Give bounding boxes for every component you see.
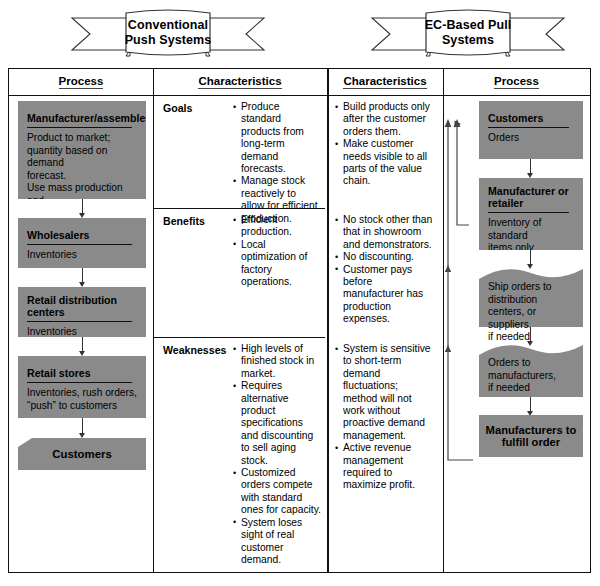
- column-divider-1: [153, 69, 154, 572]
- list-item: Active revenue management required to ma…: [335, 442, 435, 492]
- bullet-list: Efficient production. Local optimization…: [233, 214, 321, 288]
- column-header-label: Characteristics: [343, 75, 426, 89]
- process-box-title: Manufacturer or retailer: [488, 185, 575, 210]
- characteristics-pull-weaknesses: System is sensitive to short-term demand…: [335, 343, 435, 492]
- banner-label-conventional: Conventional Push Systems: [120, 18, 216, 47]
- title-underline: [488, 127, 569, 128]
- characteristics-pull-goals: Build products only after the customer o…: [335, 101, 435, 188]
- list-item: Produce standard products from long-term…: [233, 101, 321, 175]
- process-box-orders-to-manufacturers[interactable]: Orders to manufacturers, if needed: [479, 341, 583, 397]
- list-item: System loses sight of real customer dema…: [233, 517, 321, 567]
- arrow-retail-stores-to-customers: [82, 418, 84, 437]
- process-box-title: Customers: [52, 448, 112, 460]
- title-underline: [488, 212, 569, 213]
- characteristics-push-weaknesses: High levels of finished stock in market.…: [233, 343, 321, 566]
- process-box-customers-right[interactable]: Customers Orders: [479, 101, 583, 159]
- row-label-weaknesses-push: Weaknesses: [163, 344, 226, 356]
- diagram-canvas: Conventional Push Systems EC-Based Pull …: [0, 0, 600, 586]
- process-box-manufacturers-to-fulfill-order[interactable]: Manufacturers to fulfill order: [479, 415, 583, 457]
- list-item: Make customer needs visible to all parts…: [335, 138, 435, 188]
- bullet-list: System is sensitive to short-term demand…: [335, 343, 435, 492]
- row-label-text: Benefits: [163, 215, 205, 227]
- process-box-body: Inventories: [27, 249, 138, 262]
- banner-label-ec-pull: EC-Based Pull Systems: [420, 18, 516, 47]
- process-box-body: Inventories: [27, 326, 138, 337]
- banner-conventional-push: Conventional Push Systems: [68, 6, 268, 58]
- process-box-customers-left[interactable]: Customers: [18, 438, 146, 470]
- banner-ec-based-pull: EC-Based Pull Systems: [368, 6, 568, 58]
- bullet-list: High levels of finished stock in market.…: [233, 343, 321, 566]
- column-divider-2: [327, 69, 329, 572]
- column-header-label: Process: [494, 75, 539, 89]
- process-box-body: Inventory of standard items only: [488, 217, 575, 250]
- comparison-table-frame: Process Characteristics Characteristics …: [8, 68, 591, 573]
- process-box-body: Orders to manufacturers, if needed: [479, 341, 583, 399]
- arrow-orders-to-manufacturers-fulfill: [530, 397, 532, 415]
- column-header-process-left: Process: [9, 75, 153, 89]
- header-divider: [9, 95, 590, 96]
- row-label-goals-push: Goals: [163, 102, 192, 114]
- title-underline: [27, 127, 132, 128]
- list-item: High levels of finished stock in market.: [233, 343, 321, 380]
- feedback-loop-arrows: [443, 95, 479, 495]
- row-label-benefits-push: Benefits: [163, 215, 205, 227]
- list-item: Customer pays before manufacturer has pr…: [335, 264, 435, 326]
- column-header-label: Process: [59, 75, 104, 89]
- process-box-manufacturer-or-retailer[interactable]: Manufacturer or retailer Inventory of st…: [479, 178, 583, 250]
- banner-line2: Systems: [420, 33, 516, 48]
- process-box-title: Retail distribution centers: [27, 294, 138, 319]
- title-underline: [27, 244, 132, 245]
- list-item: Efficient production.: [233, 214, 321, 239]
- characteristics-pull-benefits: No stock other than that in showroom and…: [335, 214, 435, 326]
- column-header-characteristics-pull: Characteristics: [327, 75, 443, 89]
- list-item: Requires alternative product specificati…: [233, 380, 321, 467]
- process-box-body: Product to market; quantity based on dem…: [27, 132, 138, 199]
- arrow-manufacturer-to-wholesalers: [82, 199, 84, 217]
- row-label-text: Goals: [163, 102, 192, 114]
- process-box-title: Wholesalers: [27, 229, 89, 242]
- column-header-label: Characteristics: [198, 75, 281, 89]
- arrow-rdc-to-retail-stores: [82, 337, 84, 355]
- characteristics-push-goals: Produce standard products from long-term…: [233, 101, 321, 225]
- row-divider-benefits-weaknesses: [153, 337, 325, 338]
- process-box-title: Manufacturers to fulfill order: [486, 424, 577, 448]
- bullet-list: No stock other than that in showroom and…: [335, 214, 435, 326]
- process-box-manufacturer-assembler[interactable]: Manufacturer/assembler Product to market…: [18, 101, 146, 199]
- banner-line2: Push Systems: [120, 33, 216, 48]
- arrow-wholesalers-to-rdc: [82, 268, 84, 286]
- process-box-retail-distribution-centers[interactable]: Retail distribution centers Inventories: [18, 287, 146, 337]
- list-item: Customized orders compete with standard …: [233, 467, 321, 517]
- process-box-retail-stores[interactable]: Retail stores Inventories, rush orders, …: [18, 356, 146, 418]
- bullet-list: Produce standard products from long-term…: [233, 101, 321, 225]
- process-box-title: Manufacturer/assembler: [27, 112, 146, 125]
- process-box-title: Customers: [488, 112, 543, 125]
- process-box-body: Inventories, rush orders, “push” to cust…: [27, 387, 138, 412]
- list-item: System is sensitive to short-term demand…: [335, 343, 435, 442]
- banner-line1: EC-Based Pull: [420, 18, 516, 33]
- column-header-characteristics-push: Characteristics: [153, 75, 327, 89]
- process-box-body: Orders: [488, 132, 575, 145]
- title-underline: [27, 321, 132, 322]
- arrow-customers-to-manufacturer-retailer: [530, 159, 532, 177]
- process-box-ship-orders[interactable]: Ship orders to distribution centers, or …: [479, 265, 583, 327]
- list-item: Build products only after the customer o…: [335, 101, 435, 138]
- bullet-list: Build products only after the customer o…: [335, 101, 435, 188]
- process-box-wholesalers[interactable]: Wholesalers Inventories: [18, 218, 146, 268]
- banner-line1: Conventional: [120, 18, 216, 33]
- process-box-title: Retail stores: [27, 367, 91, 380]
- list-item: Local optimization of factory operations…: [233, 239, 321, 289]
- row-label-text: Weaknesses: [163, 344, 226, 356]
- characteristics-push-benefits: Efficient production. Local optimization…: [233, 214, 321, 288]
- list-item: No stock other than that in showroom and…: [335, 214, 435, 251]
- list-item: No discounting.: [335, 251, 435, 263]
- column-header-process-right: Process: [443, 75, 590, 89]
- title-underline: [27, 382, 132, 383]
